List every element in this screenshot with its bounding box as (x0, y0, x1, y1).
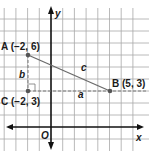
segment-c-label: c (81, 62, 87, 73)
segment-a-label: a (78, 89, 84, 100)
y-axis-down-arrow-icon (48, 142, 54, 150)
point-c (26, 89, 31, 94)
x-axis-label: x (135, 132, 142, 143)
coordinate-plane: A (−2, 6) B (5, 3) C (−2, 3) c a b y x O (0, 0, 149, 151)
point-b-label: B (5, 3) (112, 78, 145, 89)
x-axis-right-arrow-icon (137, 124, 144, 130)
point-a (26, 53, 31, 58)
y-axis-label: y (54, 8, 61, 19)
point-b (108, 89, 113, 94)
point-a-label: A (−2, 6) (1, 41, 40, 52)
x-axis-left-arrow-icon (6, 124, 13, 130)
point-c-label: C (−2, 3) (1, 96, 40, 107)
origin-label: O (41, 130, 49, 141)
segment-b-label: b (19, 69, 25, 80)
y-axis-up-arrow-icon (48, 6, 54, 14)
